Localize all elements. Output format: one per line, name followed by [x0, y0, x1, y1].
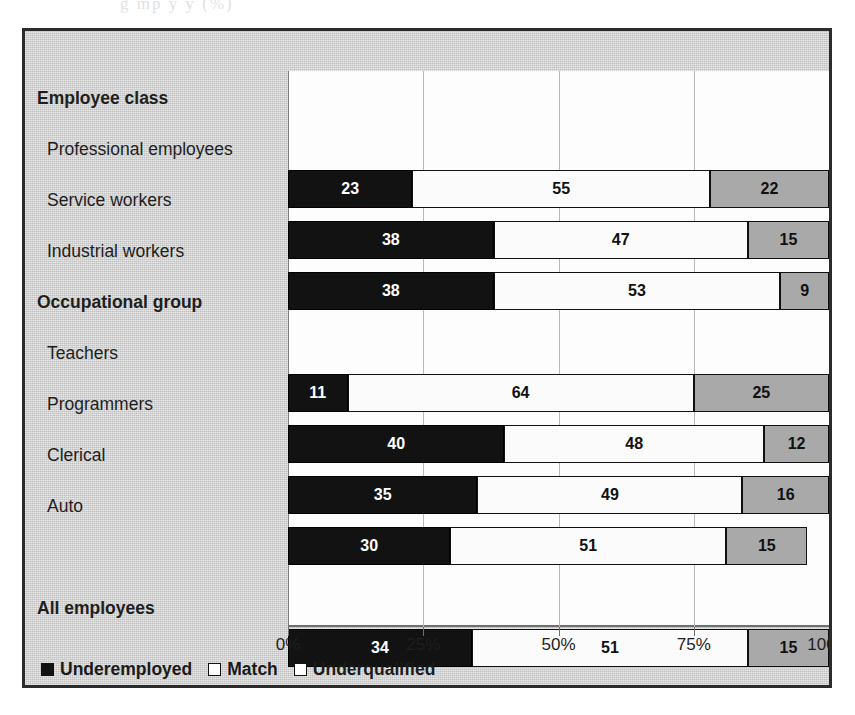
bar-row: 354916 [288, 476, 829, 514]
bar-segment-underemployed: 40 [288, 425, 504, 463]
bar-segment-underqualified: 9 [780, 272, 829, 310]
legend-swatch-icon [294, 663, 307, 676]
chart-legend: UnderemployedMatchUnderqualified [41, 659, 435, 680]
legend-swatch-icon [41, 663, 54, 676]
bar-segment-underqualified: 16 [742, 476, 829, 514]
legend-item: Underqualified [294, 659, 436, 680]
category-label: Professional employees [47, 139, 295, 159]
bar-segment-match: 51 [450, 527, 726, 565]
bar-row: 305115 [288, 527, 829, 565]
x-tick-label: 0% [276, 635, 301, 655]
plot-area: 2355223847153853911642540481235491630511… [288, 71, 829, 627]
chart-frame: Employee classProfessional employeesServ… [22, 28, 832, 688]
bar-row: 404812 [288, 425, 829, 463]
category-label: Programmers [47, 394, 295, 414]
x-tick-label: 100% [807, 635, 832, 655]
bar-segment-underemployed: 23 [288, 170, 412, 208]
bar-row: 384715 [288, 221, 829, 259]
bar-segment-match: 53 [494, 272, 781, 310]
bar-segment-match: 48 [504, 425, 764, 463]
gridline-100% [829, 71, 830, 627]
bar-segment-underqualified: 22 [710, 170, 829, 208]
bar-segment-underqualified: 15 [726, 527, 807, 565]
legend-swatch-icon [208, 663, 221, 676]
legend-label: Underemployed [60, 659, 192, 680]
x-tick-label: 75% [677, 635, 711, 655]
legend-item: Match [208, 659, 278, 680]
category-label: Occupational group [37, 292, 285, 312]
bar-segment-underqualified: 12 [764, 425, 829, 463]
bar-segment-underqualified: 25 [694, 374, 829, 412]
bar-segment-underemployed: 38 [288, 272, 494, 310]
bar-segment-underemployed: 30 [288, 527, 450, 565]
x-tick-mark [829, 627, 830, 636]
bar-row: 235522 [288, 170, 829, 208]
bar-segment-match: 55 [412, 170, 710, 208]
x-tick-label: 25% [406, 635, 440, 655]
bar-segment-underemployed: 38 [288, 221, 494, 259]
bar-segment-underemployed: 11 [288, 374, 348, 412]
legend-label: Underqualified [313, 659, 436, 680]
category-label: Industrial workers [47, 241, 295, 261]
category-label: All employees [37, 598, 285, 618]
category-label: Service workers [47, 190, 295, 210]
category-label: Teachers [47, 343, 295, 363]
category-label: Auto [47, 496, 295, 516]
bar-segment-match: 49 [477, 476, 742, 514]
bar-segment-underqualified: 15 [748, 221, 829, 259]
bar-row: 116425 [288, 374, 829, 412]
category-label: Employee class [37, 88, 285, 108]
bar-segment-underemployed: 35 [288, 476, 477, 514]
x-tick-label: 50% [541, 635, 575, 655]
scan-artifact-text: g mp y y (%) [120, 0, 680, 14]
legend-item: Underemployed [41, 659, 192, 680]
legend-label: Match [227, 659, 278, 680]
category-label: Clerical [47, 445, 295, 465]
category-label-column: Employee classProfessional employeesServ… [25, 31, 285, 685]
bar-segment-match: 47 [494, 221, 748, 259]
bar-segment-match: 64 [348, 374, 694, 412]
bar-row: 38539 [288, 272, 829, 310]
